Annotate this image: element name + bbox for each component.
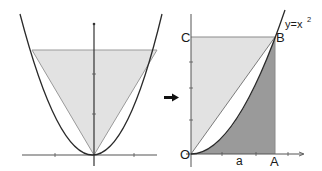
right-arrow-icon — [164, 94, 179, 102]
right-panel: C B O A a y=x 2 — [180, 10, 311, 169]
label-x-a: a — [236, 154, 243, 168]
label-point-o: O — [180, 147, 190, 162]
label-point-a: A — [270, 154, 279, 169]
label-point-c: C — [181, 30, 190, 45]
label-curve-equation: y=x — [285, 18, 303, 30]
label-curve-exponent: 2 — [307, 15, 311, 24]
left-panel — [20, 14, 162, 166]
label-point-b: B — [276, 30, 285, 45]
y-axis-tip — [93, 23, 96, 26]
parabola-area-diagram: C B O A a y=x 2 — [0, 0, 322, 171]
